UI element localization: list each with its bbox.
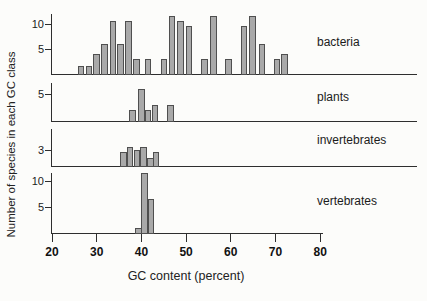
bar-plants [167,105,174,122]
bar-bacteria [241,26,248,75]
y-tick-plants [45,94,51,95]
x-tick [275,234,276,242]
y-tick-invertebrates [45,150,51,151]
panel-label-invertebrates: invertebrates [317,133,386,147]
bar-vertebrates [148,199,155,234]
gc-content-histogram-figure: Number of species in each GC class GC co… [0,0,427,301]
bar-bacteria [86,66,93,75]
y-axis-title: Number of species in each GC class [5,30,20,260]
bar-plants [138,89,145,122]
y-tick-label-vertebrates: 10 [22,175,44,188]
bar-bacteria [161,59,168,75]
y-tick-vertebrates [45,181,51,182]
panel-label-plants: plants [317,90,349,104]
bar-invertebrates [140,147,147,167]
x-tick-label: 50 [171,245,201,259]
y-tick-label-plants: 5 [22,88,44,101]
bar-bacteria [117,44,124,75]
y-tick-label-bacteria: 10 [22,18,44,31]
x-tick [52,234,53,242]
y-axis-line-bacteria [51,14,52,75]
x-tick [186,234,187,242]
bar-plants [145,110,152,122]
baseline-vertebrates [51,233,323,234]
x-tick-label: 20 [37,245,67,259]
x-tick-label: 60 [216,245,246,259]
y-tick-label-invertebrates: 3 [22,144,44,157]
x-tick-label: 40 [126,245,156,259]
bar-bacteria [125,21,132,75]
y-tick-bacteria [45,49,51,50]
bar-bacteria [201,59,208,75]
x-tick-label: 70 [261,245,291,259]
panel-label-bacteria: bacteria [317,35,360,49]
y-tick-vertebrates [45,207,51,208]
panel-label-vertebrates: vertebrates [317,194,377,208]
bar-bacteria [177,21,184,75]
x-axis-title: GC content (percent) [52,269,320,283]
bar-vertebrates [141,173,148,234]
bar-bacteria [78,66,85,75]
baseline-plants [51,121,417,122]
bar-bacteria [225,59,232,75]
bar-plants [129,110,136,122]
x-tick [96,234,97,242]
bar-bacteria [186,26,193,75]
bar-invertebrates [153,152,160,167]
bar-bacteria [93,54,100,75]
baseline-invertebrates [51,166,417,167]
x-tick-label: 30 [82,245,112,259]
bar-invertebrates [127,147,134,167]
y-axis-line-plants [51,83,52,122]
bar-bacteria [281,54,288,75]
y-axis-line-invertebrates [51,129,52,167]
x-tick-label: 80 [305,245,335,259]
bar-plants [152,105,159,122]
bar-invertebrates [134,150,141,168]
bar-bacteria [110,21,117,75]
bar-bacteria [133,59,140,75]
bar-invertebrates [120,152,127,167]
bar-bacteria [210,16,217,75]
x-tick [230,234,231,242]
y-tick-label-bacteria: 5 [22,43,44,56]
bar-bacteria [274,59,281,75]
y-tick-label-vertebrates: 5 [22,201,44,214]
bar-bacteria [169,16,176,75]
bar-bacteria [249,16,256,75]
x-tick [141,234,142,242]
x-tick [320,234,321,242]
bar-bacteria [101,44,108,75]
y-axis-line-vertebrates [51,173,52,234]
y-tick-bacteria [45,24,51,25]
bar-bacteria [145,59,152,75]
bar-bacteria [259,44,266,75]
